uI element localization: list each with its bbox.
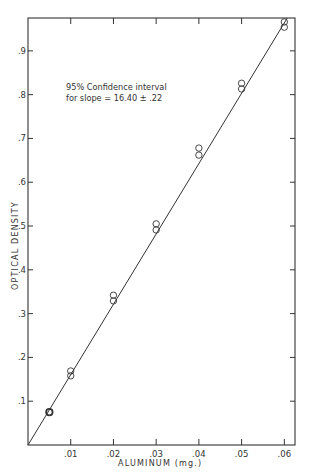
calibration-chart: .01.02.03.04.05.06 .1.2.3.4.5.6.7.8.9 95… bbox=[0, 0, 311, 476]
y-axis-title: OPTICAL DENSITY bbox=[11, 201, 20, 290]
x-axis-ticks: .01.02.03.04.05.06 bbox=[64, 439, 291, 459]
y-tick-label: .3 bbox=[18, 309, 26, 319]
confidence-interval-annotation-line2: for slope = 16.40 ± .22 bbox=[66, 93, 162, 103]
x-tick-label: .05 bbox=[235, 449, 249, 459]
x-tick-label: .01 bbox=[64, 449, 78, 459]
data-point-circle bbox=[196, 145, 202, 151]
y-tick-label: .9 bbox=[18, 46, 26, 56]
x-tick-label: .02 bbox=[107, 449, 121, 459]
data-point-circle bbox=[68, 373, 74, 379]
top-axis-ticks bbox=[71, 18, 242, 24]
data-point-circle bbox=[153, 221, 159, 227]
y-tick-label: .1 bbox=[18, 396, 26, 406]
data-point-circle bbox=[196, 152, 202, 158]
x-tick-label: .04 bbox=[192, 449, 206, 459]
y-tick-label: .6 bbox=[18, 177, 26, 187]
x-tick-label: .03 bbox=[149, 449, 163, 459]
y-tick-label: .8 bbox=[18, 90, 26, 100]
y-tick-label: .7 bbox=[18, 133, 26, 143]
x-tick-label: .06 bbox=[278, 449, 292, 459]
y-tick-label: .2 bbox=[18, 352, 26, 362]
right-axis-ticks bbox=[290, 51, 295, 401]
y-axis-ticks: .1.2.3.4.5.6.7.8.9 bbox=[18, 46, 33, 406]
confidence-interval-annotation-line1: 95% Confidence interval bbox=[66, 82, 167, 92]
x-axis-title: ALUMINUM (mg.) bbox=[118, 459, 202, 468]
